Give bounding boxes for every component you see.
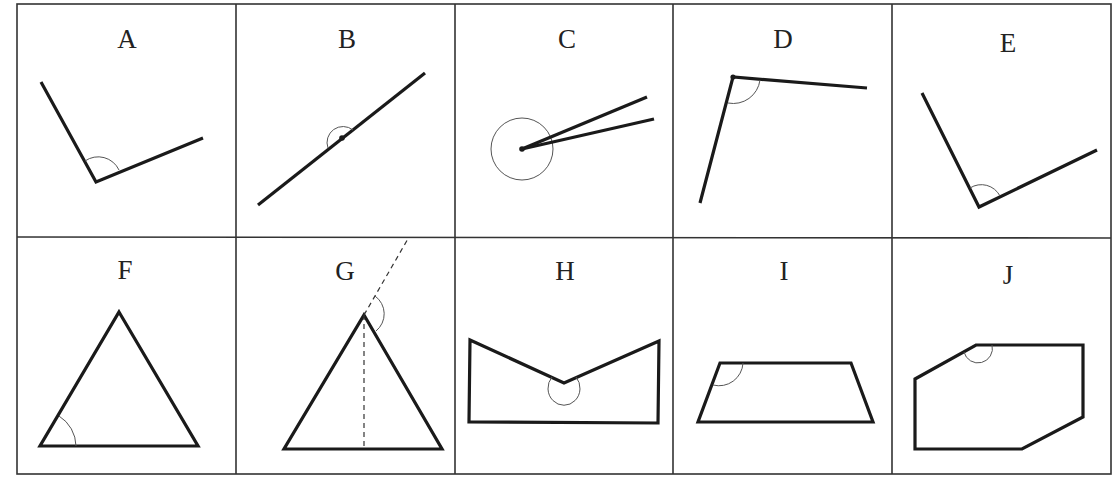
cell-label: F [117,255,132,285]
cell-d: D [700,24,867,203]
angle-arc-icon [970,185,1000,196]
vertex-dot [730,74,735,79]
exterior-angle-arc-icon [375,296,384,331]
concave-pentagon [469,340,659,423]
angle-figures-diagram: A B C D E F G [0,0,1120,483]
angle-rays [700,77,867,203]
cell-label: C [558,24,576,54]
cell-a: A [41,24,203,182]
cell-f: F [40,255,198,446]
grid [17,4,1111,474]
cell-label: J [1003,260,1014,290]
cell-label: E [1000,28,1017,58]
reflex-angle-arc-icon [548,377,580,405]
angle-rays [922,93,1097,207]
ray-lower [522,119,654,149]
cell-e: E [922,28,1097,207]
grid-border [17,4,1111,474]
cell-j: J [915,260,1083,449]
cell-c: C [491,24,654,180]
ray-upper [522,97,647,149]
vertex-dot [339,135,345,141]
cell-label: H [555,256,575,286]
angle-rays [41,82,203,182]
vertex-dot [519,146,525,152]
cell-g: G [284,237,442,449]
cell-label: G [335,256,355,286]
triangle [40,312,198,446]
cell-label: A [117,24,137,54]
cell-label: I [780,256,789,286]
cell-label: D [773,24,793,54]
hexagon [915,345,1083,449]
cell-h: H [469,256,659,423]
triangle [284,315,442,449]
cell-label: B [338,24,356,54]
trapezoid [698,363,873,422]
extension-dashed-line [364,237,409,315]
cell-b: B [258,24,425,205]
row-divider [17,237,1111,238]
angle-arc-icon [59,416,76,446]
cell-i: I [698,256,873,422]
